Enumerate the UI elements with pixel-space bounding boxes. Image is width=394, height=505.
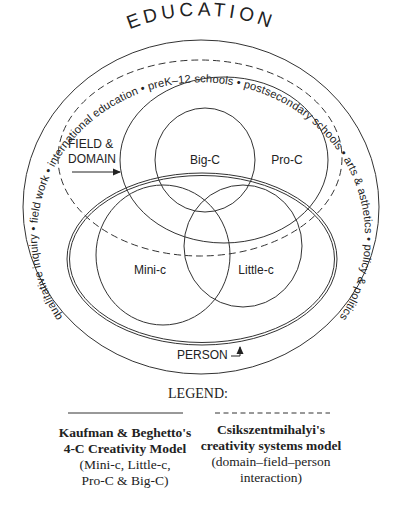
education-title: EDUCATION xyxy=(124,0,279,33)
mini-c-circle xyxy=(96,185,230,325)
legend-dashed-line1: Csikszentmihalyi's xyxy=(217,422,325,437)
legend-dashed-description: Csikszentmihalyi's creativity systems mo… xyxy=(201,422,342,485)
big-c-label: Big-C xyxy=(190,153,220,167)
person-arrow-icon xyxy=(231,347,240,356)
little-c-label: Little-c xyxy=(238,263,273,277)
field-domain-label-line1: FIELD & xyxy=(68,137,113,151)
legend-dashed-line2: creativity systems model xyxy=(201,438,342,453)
person-label: PERSON xyxy=(177,348,228,362)
legend-solid-description: Kaufman & Beghetto's 4-C Creativity Mode… xyxy=(59,425,192,488)
legend-dashed-line3: (domain–field–person xyxy=(211,454,330,469)
education-ellipse xyxy=(23,40,379,374)
legend-solid-line3: (Mini-c, Little-c, xyxy=(79,457,170,472)
legend-solid-line4: Pro-C & Big-C) xyxy=(81,473,168,488)
legend-solid-line1: Kaufman & Beghetto's xyxy=(59,425,192,440)
legend-dashed-line4: interaction) xyxy=(240,470,302,485)
person-ellipse-outer xyxy=(67,173,337,345)
creativity-diagram: EDUCATION qualitative inquiry • field wo… xyxy=(0,0,394,505)
legend-title: LEGEND: xyxy=(168,386,228,401)
little-c-circle xyxy=(184,185,302,307)
person-ellipse-inner xyxy=(70,176,335,343)
legend-solid-line2: 4-C Creativity Model xyxy=(64,441,187,456)
mini-c-label: Mini-c xyxy=(134,263,166,277)
pro-c-label: Pro-C xyxy=(271,153,303,167)
field-domain-label-line2: DOMAIN xyxy=(68,152,116,166)
